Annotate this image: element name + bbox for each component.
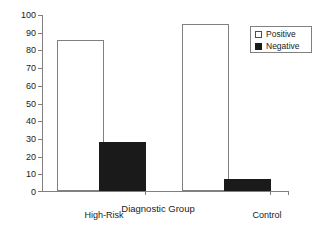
- y-axis-label-60: 60: [10, 82, 36, 91]
- y-tick-10: [38, 174, 42, 175]
- x-tick-end: [288, 191, 289, 195]
- y-axis-label-30: 30: [10, 135, 36, 144]
- bar-chart: 100 90 80 70 60 50 40 30 20 10 0: [0, 0, 316, 225]
- y-axis-labels: 100 90 80 70 60 50 40 30 20 10 0: [8, 15, 36, 192]
- y-tick-80: [38, 50, 42, 51]
- legend-label-positive: Positive: [266, 30, 296, 39]
- y-axis-label-80: 80: [10, 46, 36, 55]
- bar-high-risk-negative: [99, 142, 146, 191]
- y-axis-label-40: 40: [10, 117, 36, 126]
- x-tick-control: [270, 191, 271, 195]
- bar-control-negative: [224, 179, 271, 191]
- y-axis-label-50: 50: [10, 100, 36, 109]
- bar-control-positive: [182, 24, 229, 191]
- legend-item-positive: Positive: [255, 29, 311, 40]
- x-axis-title: Diagnostic Group: [0, 203, 316, 214]
- y-tick-20: [38, 157, 42, 158]
- legend-swatch-positive-icon: [255, 31, 262, 38]
- y-axis-label-100: 100: [10, 11, 36, 20]
- legend-swatch-negative-icon: [255, 43, 262, 50]
- y-axis-label-20: 20: [10, 153, 36, 162]
- y-tick-60: [38, 86, 42, 87]
- y-axis-label-70: 70: [10, 64, 36, 73]
- x-axis-line: [42, 191, 289, 192]
- y-tick-90: [38, 33, 42, 34]
- y-tick-40: [38, 121, 42, 122]
- y-axis-label-10: 10: [10, 170, 36, 179]
- y-tick-50: [38, 104, 42, 105]
- legend-item-negative: Negative: [255, 41, 311, 52]
- legend-label-negative: Negative: [266, 42, 300, 51]
- y-tick-100: [38, 15, 42, 16]
- y-axis-label-0: 0: [10, 188, 36, 197]
- chart-legend: Positive Negative: [250, 26, 312, 53]
- y-axis-line: [42, 15, 43, 192]
- y-axis-label-90: 90: [10, 29, 36, 38]
- x-tick-high-risk: [145, 191, 146, 195]
- y-tick-30: [38, 139, 42, 140]
- y-tick-0: [38, 191, 42, 192]
- y-tick-70: [38, 68, 42, 69]
- bar-high-risk-positive: [57, 40, 104, 191]
